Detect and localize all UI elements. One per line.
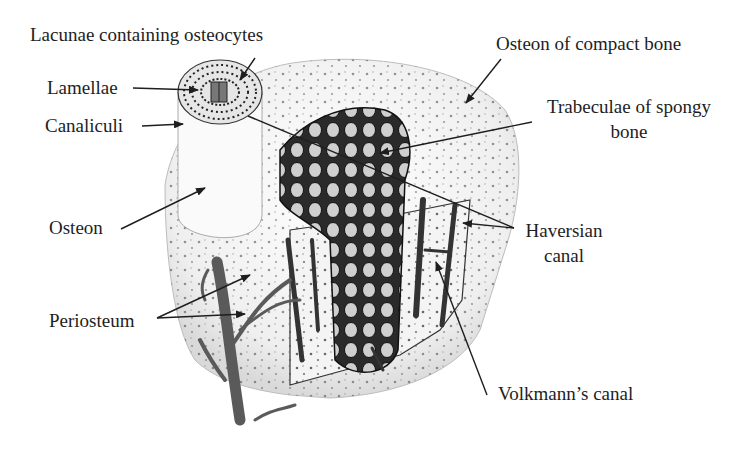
osteon-cylinder bbox=[178, 60, 262, 238]
label-osteon-compact: Osteon of compact bone bbox=[496, 33, 681, 55]
label-trabeculae-line2: bone bbox=[530, 121, 728, 143]
label-haversian-line1: Haversian bbox=[515, 220, 613, 242]
label-trabeculae-line1: Trabeculae of spongy bbox=[530, 96, 728, 118]
label-trabeculae: Trabeculae of spongy bone bbox=[530, 96, 728, 143]
label-lamellae: Lamellae bbox=[47, 77, 118, 99]
label-periosteum: Periosteum bbox=[49, 310, 135, 332]
label-haversian: Haversian canal bbox=[515, 220, 613, 267]
bone-structure-diagram: Lacunae containing osteocytes Lamellae C… bbox=[0, 0, 750, 456]
label-osteon: Osteon bbox=[49, 217, 103, 239]
label-canaliculi: Canaliculi bbox=[45, 115, 123, 137]
arrow-canaliculi bbox=[142, 124, 183, 126]
label-volkmann: Volkmann’s canal bbox=[498, 383, 633, 405]
label-lacunae: Lacunae containing osteocytes bbox=[30, 24, 263, 46]
bone-illustration bbox=[0, 0, 750, 456]
label-haversian-line2: canal bbox=[515, 245, 613, 267]
